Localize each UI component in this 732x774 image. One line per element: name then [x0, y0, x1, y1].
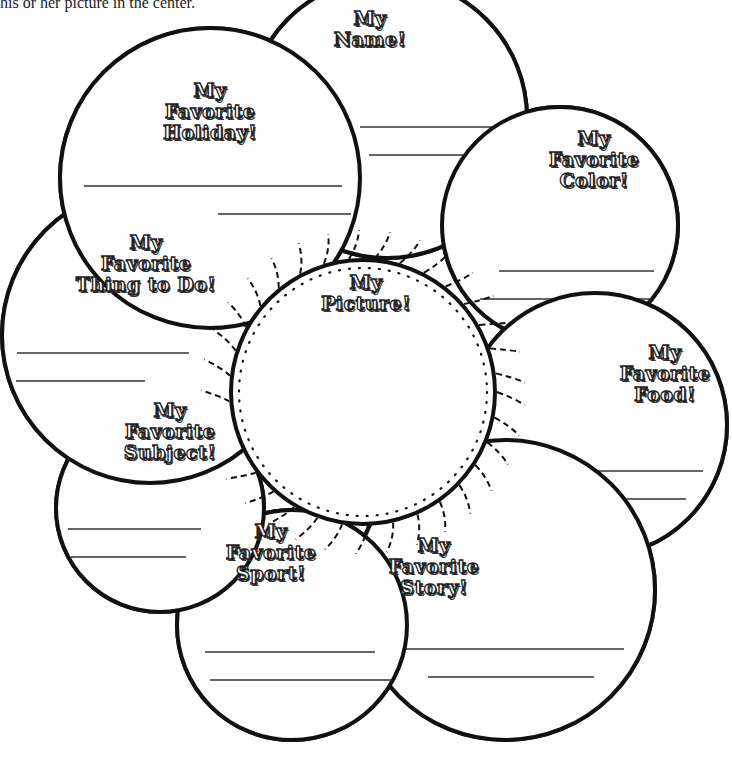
label-line: My [124, 400, 216, 421]
label-line: My [163, 80, 257, 101]
label-line: Food! [620, 384, 711, 405]
label-line: Subject! [124, 442, 216, 463]
label-line: My [76, 232, 216, 253]
label-line: My [321, 272, 411, 293]
label-name: MyName! [334, 8, 407, 50]
label-line: Favorite [389, 556, 480, 577]
label-line: My [389, 535, 480, 556]
label-line: Favorite [124, 421, 216, 442]
sun-ray-decoration [424, 254, 448, 273]
label-food: MyFavoriteFood! [620, 342, 711, 405]
label-line: Story! [389, 577, 480, 598]
label-thing-to-do: MyFavoriteThing to Do! [76, 232, 216, 295]
label-line: My [334, 8, 407, 29]
label-line: Thing to Do! [76, 274, 216, 295]
label-line: Holiday! [163, 122, 257, 143]
label-subject: MyFavoriteSubject! [124, 400, 216, 463]
label-picture: MyPicture! [321, 272, 411, 314]
label-story: MyFavoriteStory! [389, 535, 480, 598]
label-color: MyFavoriteColor! [549, 128, 640, 191]
label-line: My [226, 521, 317, 542]
label-line: Sport! [226, 563, 317, 584]
label-line: Favorite [226, 542, 317, 563]
label-sport: MyFavoriteSport! [226, 521, 317, 584]
label-holiday: MyFavoriteHoliday! [163, 80, 257, 143]
label-line: My [620, 342, 711, 363]
label-line: Picture! [321, 293, 411, 314]
label-line: Favorite [163, 101, 257, 122]
label-line: Name! [334, 29, 407, 50]
label-line: Favorite [620, 363, 711, 384]
label-line: My [549, 128, 640, 149]
label-line: Color! [549, 170, 640, 191]
label-line: Favorite [76, 253, 216, 274]
label-line: Favorite [549, 149, 640, 170]
